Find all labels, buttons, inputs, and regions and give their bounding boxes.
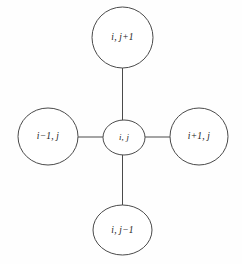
node-north[interactable]: i, j+1: [92, 7, 153, 68]
node-south[interactable]: i, j−1: [93, 205, 152, 255]
node-center-label: i, j: [119, 132, 129, 142]
node-east[interactable]: i+1, j: [170, 108, 228, 165]
node-west[interactable]: i−1, j: [18, 108, 78, 165]
node-center[interactable]: i, j: [103, 120, 145, 155]
node-north-label: i, j+1: [111, 32, 133, 42]
node-west-label: i−1, j: [37, 131, 60, 141]
node-south-label: i, j−1: [111, 225, 133, 235]
node-east-label: i+1, j: [188, 131, 211, 141]
diagram-canvas: i, j+1 i−1, j i, j i+1, j i, j−1: [0, 0, 242, 264]
stencil-diagram: i, j+1 i−1, j i, j i+1, j i, j−1: [0, 0, 242, 264]
